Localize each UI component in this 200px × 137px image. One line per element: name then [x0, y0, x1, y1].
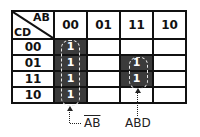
map-cell: 1: [54, 71, 87, 87]
map-cell: [87, 87, 120, 103]
corner-header: AB CD: [12, 11, 54, 39]
map-cell: 1: [120, 71, 153, 87]
map-cell: [153, 55, 186, 71]
map-cell: 1: [120, 55, 153, 71]
group-label-abd: ABD: [125, 116, 151, 130]
column-header: 11: [120, 11, 153, 39]
map-cell: [153, 87, 186, 103]
column-variable-label: AB: [33, 11, 50, 24]
arrow-head-icon: [67, 106, 73, 111]
map-cell: 1: [54, 39, 87, 55]
column-header: 01: [87, 11, 120, 39]
map-cell: 1: [54, 55, 87, 71]
row-header: 11: [12, 71, 54, 87]
arrow-line: [137, 92, 138, 116]
karnaugh-map: AB CD 00 01 11 10 00 1 01 1 1 11 1 1 10 …: [11, 10, 187, 104]
column-header: 10: [153, 11, 186, 39]
map-cell: [153, 71, 186, 87]
arrow-line: [70, 123, 81, 124]
row-header: 00: [12, 39, 54, 55]
arrow-line: [69, 110, 70, 123]
map-cell: [87, 55, 120, 71]
map-cell: [87, 39, 120, 55]
row-header: 01: [12, 55, 54, 71]
group-label-ab: AB: [84, 116, 100, 130]
arrow-head-icon: [135, 88, 141, 93]
map-cell: [153, 39, 186, 55]
map-cell: [87, 71, 120, 87]
row-variable-label: CD: [14, 26, 31, 39]
map-cell: 1: [54, 87, 87, 103]
row-header: 10: [12, 87, 54, 103]
column-header: 00: [54, 11, 87, 39]
map-cell: [120, 39, 153, 55]
